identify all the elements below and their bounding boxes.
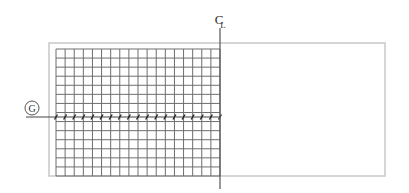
centerline-symbol: C L (215, 12, 226, 30)
building-outline (49, 43, 385, 176)
centerline-symbol-l: L (220, 20, 226, 30)
grid-marker-label: G (28, 103, 35, 114)
floor-grid (56, 49, 220, 176)
floor-plan-diagram: G C L (0, 0, 409, 193)
